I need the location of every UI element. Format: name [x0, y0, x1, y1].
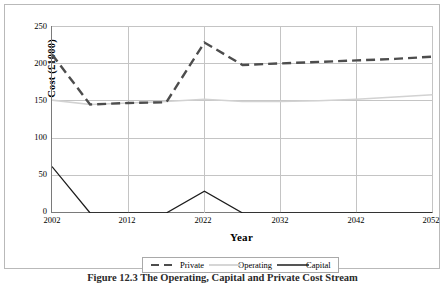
plot-area — [51, 26, 432, 213]
solid-dark-line-icon — [277, 261, 303, 269]
y-tick-250: 250 — [13, 22, 47, 31]
x-axis-label: Year — [51, 231, 432, 243]
figure-root: Cost (£1000) 250 200 150 100 50 0 — [0, 0, 445, 288]
y-tick-100: 100 — [13, 133, 47, 142]
x-tick-2052: 2052 — [411, 215, 445, 225]
x-tick-2042: 2042 — [336, 215, 376, 225]
vertical-gridlines — [128, 26, 432, 213]
x-tick-2002: 2002 — [32, 215, 72, 225]
series-line-private — [52, 43, 433, 105]
y-tick-50: 50 — [13, 170, 47, 179]
figure-caption: Figure 12.3 The Operating, Capital and P… — [0, 272, 445, 288]
y-tick-150: 150 — [13, 96, 47, 105]
chart-frame: Cost (£1000) 250 200 150 100 50 0 — [4, 4, 440, 269]
legend-label-capital: Capital — [306, 260, 333, 270]
series-line-capital — [52, 167, 433, 213]
y-tick-200: 200 — [13, 59, 47, 68]
chart-legend: Private Operating Capital — [142, 257, 339, 273]
legend-item-operating[interactable]: Operating — [206, 260, 274, 270]
legend-item-capital[interactable]: Capital — [274, 260, 333, 270]
x-tick-2032: 2032 — [260, 215, 300, 225]
x-tick-2012: 2012 — [107, 215, 147, 225]
series-line-operating — [52, 95, 433, 105]
legend-item-private[interactable]: Private — [148, 260, 206, 270]
legend-label-operating: Operating — [238, 260, 274, 270]
solid-light-line-icon — [209, 261, 235, 269]
y-axis-tick-labels: 250 200 150 100 50 0 — [11, 26, 47, 213]
x-tick-2022: 2022 — [183, 215, 223, 225]
plot-svg — [52, 26, 433, 213]
dashed-line-icon — [151, 261, 177, 269]
legend-label-private: Private — [180, 260, 206, 270]
x-axis-tick-labels: 2002 2012 2022 2032 2042 2052 — [51, 215, 432, 229]
